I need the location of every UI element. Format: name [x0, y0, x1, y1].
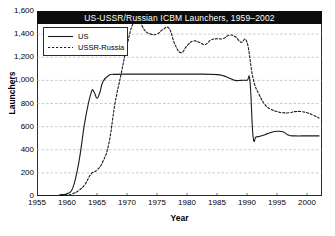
y-tick-label: 800 — [1, 100, 34, 108]
legend-line-swatch — [48, 33, 73, 40]
legend-item: USSR-Russia — [48, 42, 123, 53]
x-tick-label: 1985 — [208, 199, 226, 207]
x-tick-label: 1955 — [28, 199, 46, 207]
legend-label: US — [78, 33, 88, 41]
x-axis-tick-marks — [37, 193, 307, 196]
x-tick-label: 1990 — [238, 199, 256, 207]
y-tick-label: 1,600 — [1, 7, 34, 15]
y-tick-label: 600 — [1, 123, 34, 131]
y-axis-title: Launchers — [7, 53, 17, 133]
chart-container: 02004006008001,0001,2001,4001,600 Launch… — [0, 0, 335, 236]
y-tick-label: 1,000 — [1, 76, 34, 84]
x-tick-label: 1995 — [268, 199, 286, 207]
x-axis-title: Year — [37, 213, 322, 223]
y-tick-label: 200 — [1, 169, 34, 177]
x-axis-tick-labels: 1955196019651970197519801985199019952000 — [37, 199, 322, 211]
legend-item: US — [48, 31, 123, 42]
x-tick-label: 1960 — [58, 199, 76, 207]
y-tick-label: 1,200 — [1, 53, 34, 61]
y-tick-label: 400 — [1, 146, 34, 154]
x-tick-label: 2000 — [298, 199, 316, 207]
series-line-us — [37, 74, 319, 196]
legend-label: USSR-Russia — [78, 44, 124, 52]
y-tick-label: 1,400 — [1, 30, 34, 38]
x-tick-label: 1970 — [118, 199, 136, 207]
y-axis-tick-labels: 02004006008001,0001,2001,4001,600 — [0, 11, 34, 196]
legend-line-swatch — [48, 44, 73, 51]
x-tick-label: 1965 — [88, 199, 106, 207]
chart-title-band: US-USSR/Russian ICBM Launchers, 1959–200… — [37, 11, 322, 24]
x-tick-label: 1975 — [148, 199, 166, 207]
x-tick-label: 1980 — [178, 199, 196, 207]
chart-title: US-USSR/Russian ICBM Launchers, 1959–200… — [84, 13, 274, 23]
chart-legend: USUSSR-Russia — [43, 27, 128, 56]
